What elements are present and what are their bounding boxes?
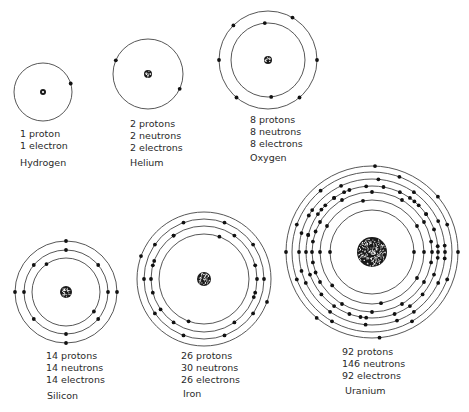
oxygen-neutrons: 8 neutrons <box>250 126 303 138</box>
nucleon-speck <box>200 279 201 280</box>
oxygen-protons: 8 protons <box>250 114 303 126</box>
nucleon-speck <box>376 260 377 261</box>
nucleon-speck <box>360 259 361 260</box>
electron-dot <box>422 280 426 284</box>
nucleon-speck <box>359 247 360 248</box>
electron-dot <box>328 310 332 314</box>
electron-dot <box>424 212 428 216</box>
nucleon-speck <box>380 257 381 258</box>
nucleon-speck <box>375 257 376 258</box>
electron-dot <box>297 250 301 254</box>
electron-dot <box>415 224 419 228</box>
electron-dot <box>436 195 440 199</box>
nucleon-speck <box>68 292 69 293</box>
helium-neutrons: 2 neutrons <box>130 130 183 142</box>
electron-dot <box>311 261 315 265</box>
electron-dot <box>443 250 447 254</box>
electron-dot <box>223 334 227 338</box>
nucleon-speck <box>364 242 365 243</box>
oxygen-electrons: 8 electrons <box>250 138 303 150</box>
electron-dot <box>318 280 322 284</box>
nucleon-speck <box>382 254 383 255</box>
electron-dot <box>364 323 368 327</box>
nucleus-center <box>42 91 44 93</box>
electron-dot <box>64 239 68 243</box>
electron-dot <box>32 263 36 267</box>
nucleon-speck <box>375 243 376 244</box>
nucleon-speck <box>266 60 267 61</box>
electron-dot <box>262 277 266 281</box>
nucleon-speck <box>368 241 369 242</box>
electron-dot <box>422 250 426 254</box>
electron-dot <box>348 188 352 192</box>
electron-dot <box>436 250 440 254</box>
electron-dot <box>328 250 332 254</box>
iron-counts: 26 protons 30 neutrons 26 electrons <box>181 350 240 386</box>
iron-electrons: 26 electrons <box>181 374 240 386</box>
nucleon-speck <box>377 246 378 247</box>
nucleon-speck <box>378 254 379 255</box>
nucleon-speck <box>148 75 149 76</box>
nucleon-speck <box>370 243 371 244</box>
uranium-protons: 92 protons <box>342 346 405 358</box>
nucleon-speck <box>373 263 374 264</box>
nucleon-speck <box>200 280 201 281</box>
nucleon-speck <box>374 250 375 251</box>
electron-dot <box>92 310 96 314</box>
nucleon-speck <box>205 278 206 279</box>
nucleon-speck <box>204 280 205 281</box>
nucleon-speck <box>207 282 208 283</box>
electron-dot <box>361 199 365 203</box>
electron-dot <box>304 250 308 254</box>
electron-dot <box>96 317 100 321</box>
nucleon-speck <box>69 290 70 291</box>
silicon-counts: 14 protons 14 neutrons 14 electrons <box>46 350 105 386</box>
electron-dot <box>432 273 436 277</box>
nucleon-speck <box>378 256 379 257</box>
electron-dot <box>342 190 346 194</box>
nucleon-speck <box>360 253 361 254</box>
electron-dot <box>153 312 157 316</box>
nucleon-speck <box>366 245 367 246</box>
nucleon-speck <box>67 291 68 292</box>
nucleus <box>60 286 72 298</box>
electron-dot <box>379 301 383 305</box>
nucleon-speck <box>146 72 147 73</box>
nucleon-speck <box>372 240 373 241</box>
electron-dot <box>395 319 399 323</box>
nucleus <box>357 237 387 267</box>
nucleon-speck <box>373 244 374 245</box>
electron-dot <box>340 302 344 306</box>
nucleon-speck <box>381 245 382 246</box>
electron-dot <box>45 262 49 266</box>
nucleon-speck <box>382 245 383 246</box>
nucleon-speck <box>66 296 67 297</box>
silicon-atom <box>13 239 119 345</box>
uranium-neutrons: 146 neutrons <box>342 358 405 370</box>
nucleon-speck <box>364 245 365 246</box>
nucleon-speck <box>377 262 378 263</box>
nucleon-speck <box>374 258 375 259</box>
nucleon-speck <box>382 250 383 251</box>
nucleon-speck <box>362 257 363 258</box>
electron-dot <box>310 208 314 212</box>
nucleon-speck <box>383 257 384 258</box>
electron-dot <box>298 96 302 100</box>
silicon-neutrons: 14 neutrons <box>46 362 105 374</box>
nucleon-speck <box>204 274 205 275</box>
electron-dot <box>263 21 267 25</box>
electron-dot <box>332 304 336 308</box>
electron-dot <box>315 58 319 62</box>
nucleon-speck <box>360 245 361 246</box>
nucleon-speck <box>370 265 371 266</box>
nucleon-speck <box>370 252 371 253</box>
electron-dot <box>304 281 308 285</box>
electron-dot <box>430 250 434 254</box>
nucleon-speck <box>378 242 379 243</box>
nucleon-speck <box>363 244 364 245</box>
electron-dot <box>69 82 73 86</box>
electron-dot <box>412 190 416 194</box>
electron-dot <box>412 250 416 254</box>
electron-dot <box>370 310 374 314</box>
nucleon-speck <box>206 279 207 280</box>
